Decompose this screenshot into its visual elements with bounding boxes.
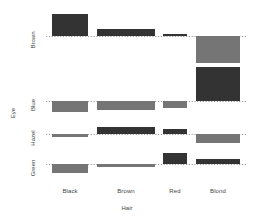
association-plot: BlackBrownRedBlond BrownBlueHazelGreen H… — [0, 0, 255, 221]
x-tick-label-brown: Brown — [117, 188, 135, 194]
y-tick-label-hazel: Hazel — [30, 130, 36, 145]
y-axis-title: Eye — [10, 108, 16, 118]
y-tick-label-blue: Blue — [30, 99, 36, 111]
y-tick-label-brown: Brown — [30, 31, 36, 48]
axis-label-layer: BlackBrownRedBlond BrownBlueHazelGreen H… — [0, 0, 255, 221]
x-tick-label-black: Black — [62, 188, 77, 194]
x-tick-label-red: Red — [169, 188, 180, 194]
x-axis-title: Hair — [121, 205, 132, 211]
y-tick-label-green: Green — [30, 160, 36, 177]
x-tick-label-blond: Blond — [210, 188, 226, 194]
